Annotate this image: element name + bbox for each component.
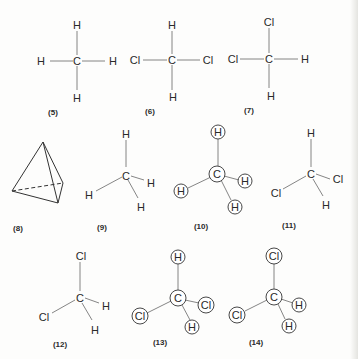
atom-cl: Cl: [39, 311, 49, 323]
structure-label: (12): [53, 340, 68, 349]
structure-label: (10): [194, 222, 209, 231]
structure-label: (11): [282, 221, 296, 230]
structure-8-tetrahedron: (8): [12, 142, 63, 233]
structure-label: (8): [13, 224, 23, 233]
structure-10: H H C H H (10): [174, 125, 252, 231]
atom-h: H: [307, 127, 315, 139]
atom-cl: Cl: [201, 299, 211, 311]
structure-13: H Cl C Cl H (13): [132, 250, 214, 347]
atom-h: H: [73, 92, 81, 104]
atom-c: C: [122, 170, 130, 182]
atom-h: H: [231, 201, 239, 213]
structure-label: (9): [97, 223, 107, 232]
atom-h: H: [91, 324, 99, 336]
atom-h: H: [177, 185, 185, 197]
atom-h: H: [109, 55, 117, 67]
atom-cl: Cl: [76, 250, 86, 262]
atom-cl: Cl: [228, 53, 238, 65]
structure-7: Cl Cl C H H (7): [228, 16, 309, 115]
atom-cl: Cl: [333, 173, 343, 185]
atom-c: C: [73, 55, 81, 67]
atom-h: H: [73, 19, 81, 31]
page-edge-shadow: [350, 0, 358, 359]
atom-h: H: [168, 19, 176, 31]
atom-h: H: [285, 320, 293, 332]
atom-h: H: [137, 201, 145, 213]
atom-h: H: [85, 189, 93, 201]
atom-h: H: [169, 91, 177, 103]
atom-cl: Cl: [271, 187, 281, 199]
atom-h: H: [295, 299, 303, 311]
figure-canvas: H H C H H (5) H Cl C Cl H (6) Cl Cl C H …: [0, 0, 358, 359]
structure-label: (6): [145, 107, 155, 116]
atom-c: C: [76, 292, 84, 304]
structure-14: Cl Cl C H H (14): [229, 248, 306, 347]
atom-cl: Cl: [130, 54, 140, 66]
atom-h: H: [174, 251, 182, 263]
atom-cl: Cl: [135, 310, 145, 322]
structure-label: (14): [249, 338, 264, 347]
atom-h: H: [147, 177, 155, 189]
atom-h: H: [37, 55, 45, 67]
atom-cl: Cl: [203, 54, 213, 66]
atom-cl: Cl: [269, 250, 279, 262]
atom-c: C: [270, 291, 278, 303]
structure-12: Cl Cl C H H (12): [39, 250, 110, 349]
atom-c: C: [307, 168, 315, 180]
atom-h: H: [214, 126, 222, 138]
atom-h: H: [301, 53, 309, 65]
atom-c: C: [168, 54, 176, 66]
atom-h: H: [122, 128, 130, 140]
structure-5: H H C H H (5): [37, 19, 117, 117]
atom-h: H: [322, 199, 330, 211]
atom-c: C: [265, 53, 273, 65]
atom-cl: Cl: [232, 309, 242, 321]
structure-9: H H C H H (9): [85, 128, 155, 232]
structure-11: H Cl C Cl H (11): [271, 127, 343, 230]
atom-c: C: [174, 292, 182, 304]
atom-h: H: [241, 175, 249, 187]
atom-h: H: [102, 300, 110, 312]
structure-6: H Cl C Cl H (6): [130, 19, 213, 116]
structure-label: (7): [244, 106, 254, 115]
atom-c: C: [213, 168, 221, 180]
atom-cl: Cl: [264, 16, 274, 28]
atom-h: H: [188, 321, 196, 333]
structure-label: (13): [153, 338, 168, 347]
atom-h: H: [267, 90, 275, 102]
structure-label: (5): [48, 108, 58, 117]
